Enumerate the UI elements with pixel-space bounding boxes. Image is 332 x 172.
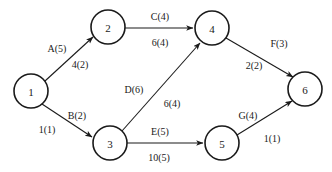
edge-label-1-3-secondary: 1(1): [39, 124, 56, 136]
edge-label-5-6-primary: G(4): [239, 110, 258, 122]
edge-label-4-6-secondary: 2(2): [246, 60, 263, 72]
node-5-label: 5: [219, 138, 225, 150]
edge-label-3-4-secondary: 6(4): [164, 98, 181, 110]
network-flow-diagram: 123456 A(5)4(2)B(2)1(1)C(4)6(4)D(6)6(4)E…: [0, 0, 332, 172]
node-6-label: 6: [302, 84, 308, 96]
diagram-canvas: 123456 A(5)4(2)B(2)1(1)C(4)6(4)D(6)6(4)E…: [0, 0, 332, 172]
edge-labels-layer: A(5)4(2)B(2)1(1)C(4)6(4)D(6)6(4)E(5)10(5…: [39, 11, 288, 164]
node-2-label: 2: [105, 22, 111, 34]
edge-label-3-5-primary: E(5): [151, 126, 169, 138]
edge-label-2-4-primary: C(4): [151, 11, 169, 23]
edge-label-4-6-primary: F(3): [270, 38, 287, 50]
edge-label-1-2-primary: A(5): [48, 43, 67, 55]
node-2[interactable]: 2: [91, 10, 125, 44]
node-1[interactable]: 1: [14, 74, 48, 108]
node-6[interactable]: 6: [288, 72, 322, 106]
node-4-label: 4: [209, 23, 215, 35]
node-1-label: 1: [28, 86, 34, 98]
edge-label-2-4-secondary: 6(4): [152, 37, 169, 49]
node-4[interactable]: 4: [195, 11, 229, 45]
edge-label-3-4-primary: D(6): [125, 84, 144, 96]
edge-label-5-6-secondary: 1(1): [264, 133, 281, 145]
node-3-label: 3: [107, 138, 113, 150]
edge-label-3-5-secondary: 10(5): [148, 152, 170, 164]
edge-label-1-3-primary: B(2): [68, 110, 86, 122]
edge-label-1-2-secondary: 4(2): [72, 59, 89, 71]
node-3[interactable]: 3: [93, 126, 127, 160]
node-5[interactable]: 5: [205, 126, 239, 160]
